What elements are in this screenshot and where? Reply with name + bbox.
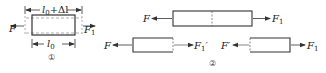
right-piece-left-force-label: F′ <box>220 40 231 51</box>
bottom-dimension-label: l0 <box>47 38 55 51</box>
bottom-dimension-line: l0 <box>32 38 75 51</box>
stretched-outline-dashed <box>25 16 82 35</box>
left-force-label: F <box>8 23 17 34</box>
whole-bar <box>173 11 252 26</box>
whole-bar-group: F F1 <box>142 11 283 26</box>
diagram-1: l0+Δl F F1 l0 ① <box>8 4 95 62</box>
diagram-1-number: ① <box>48 53 55 62</box>
right-piece-right-force-label: F1 <box>306 40 318 53</box>
left-piece-group: F F1′ <box>103 38 208 53</box>
right-piece-group: F′ F1 <box>220 38 318 53</box>
left-piece-right-force-label: F1′ <box>193 40 208 53</box>
top-right-force-label: F1 <box>271 13 283 26</box>
left-piece-left-force-label: F <box>103 40 112 51</box>
top-left-force-label: F <box>142 13 151 24</box>
diagram-2-number: ② <box>209 59 216 68</box>
diagram-2: F F1 F F1′ F′ F1 ② <box>103 11 318 68</box>
physics-diagram: l0+Δl F F1 l0 ① F <box>0 0 326 73</box>
